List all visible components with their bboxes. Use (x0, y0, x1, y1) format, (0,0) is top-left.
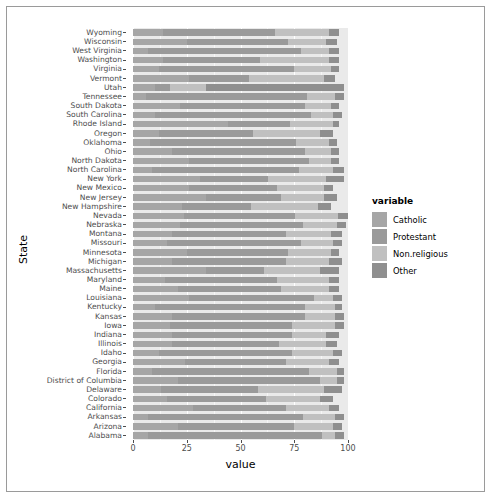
bar-segment (133, 350, 159, 356)
bar-segment (193, 405, 285, 411)
bar-row (133, 339, 348, 348)
bar-segment (335, 313, 344, 319)
bar-segment (324, 386, 341, 392)
y-axis-tick-label: Wyoming (34, 28, 126, 37)
stacked-bar (133, 350, 348, 356)
stacked-bar (133, 48, 348, 54)
stacked-bar (133, 194, 348, 200)
bar-row (133, 348, 348, 357)
bar-segment (133, 405, 193, 411)
bar-segment (172, 313, 305, 319)
bar-segment (331, 66, 340, 72)
stacked-bar (133, 322, 348, 328)
bar-segment (264, 267, 320, 273)
stacked-bar (133, 368, 348, 374)
y-axis-tick-label: Minnesota (34, 248, 126, 257)
bar-segment (266, 396, 320, 402)
bar-segment (133, 121, 228, 127)
bar-segment (133, 304, 155, 310)
y-axis-tick-label: Michigan (34, 257, 126, 266)
bar-row (133, 138, 348, 147)
bar-segment (322, 432, 335, 438)
bar-segment (324, 194, 337, 200)
bar-segment (338, 213, 348, 219)
bar-segment (295, 213, 338, 219)
bar-segment (281, 194, 324, 200)
bar-row (133, 312, 348, 321)
bar-segment (292, 350, 333, 356)
bar-segment (133, 386, 161, 392)
stacked-bar (133, 103, 348, 109)
bar-segment (152, 167, 298, 173)
bar-segment (326, 341, 337, 347)
chart-figure: State WyomingWisconsinWest VirginiaWashi… (0, 0, 491, 498)
legend-item[interactable]: Protestant (372, 228, 476, 245)
bar-row (133, 202, 348, 211)
bar-row (133, 248, 348, 257)
legend-item[interactable]: Other (372, 262, 476, 279)
bar-segment (152, 368, 309, 374)
bar-segment (148, 48, 301, 54)
y-axis-tick-label: South Carolina (34, 110, 126, 119)
bar-segment (155, 304, 306, 310)
bar-row (133, 403, 348, 412)
bar-segment (320, 377, 337, 383)
stacked-bar (133, 240, 348, 246)
bar-row (133, 129, 348, 138)
bar-segment (268, 176, 326, 182)
bar-segment (172, 148, 305, 154)
bar-segment (296, 139, 328, 145)
bar-segment (324, 185, 333, 191)
bar-segment (299, 167, 333, 173)
y-axis-tick-label: New York (34, 175, 126, 184)
bar-row (133, 257, 348, 266)
bar-segment (133, 377, 178, 383)
bar-segment (133, 130, 159, 136)
bar-segment (275, 29, 329, 35)
stacked-bar (133, 158, 348, 164)
bar-segment (159, 350, 292, 356)
bar-row (133, 147, 348, 156)
legend-item[interactable]: Non.religious (372, 245, 476, 262)
y-axis-tick-label: Maine (34, 284, 126, 293)
bar-segment (178, 377, 320, 383)
legend-swatch (372, 263, 387, 278)
bar-segment (320, 267, 339, 273)
bar-segment (206, 267, 264, 273)
bar-row (133, 92, 348, 101)
bar-row (133, 110, 348, 119)
legend-label: Non.religious (393, 249, 448, 259)
bar-segment (133, 103, 180, 109)
bar-segment (324, 75, 335, 81)
y-axis-tick-label: Virginia (34, 65, 126, 74)
bar-segment (335, 93, 344, 99)
x-axis-tick-mark (187, 440, 188, 443)
bar-segment (331, 103, 340, 109)
bar-row (133, 46, 348, 55)
bar-segment (187, 39, 288, 45)
bar-segment (146, 93, 307, 99)
bar-segment (329, 258, 342, 264)
bar-segment (331, 249, 340, 255)
bar-segment (253, 130, 320, 136)
legend-item[interactable]: Catholic (372, 211, 476, 228)
stacked-bar (133, 341, 348, 347)
y-axis-tick-label: Oklahoma (34, 138, 126, 147)
bar-segment (148, 432, 322, 438)
legend-label: Catholic (393, 215, 427, 225)
y-axis-tick-label: Kansas (34, 312, 126, 321)
bar-segment (329, 359, 340, 365)
x-axis-tick-mark (348, 440, 349, 443)
bar-segment (167, 240, 300, 246)
bar-segment (251, 203, 318, 209)
bar-segment (329, 48, 340, 54)
bar-segment (329, 29, 340, 35)
bar-row (133, 431, 348, 440)
bar-segment (279, 341, 326, 347)
bar-segment (189, 75, 249, 81)
y-axis-tick-label: California (34, 403, 126, 412)
y-axis-tick-label: Indiana (34, 330, 126, 339)
bar-segment (133, 322, 170, 328)
x-axis-tick-mark (294, 440, 295, 443)
bar-segment (335, 304, 341, 310)
